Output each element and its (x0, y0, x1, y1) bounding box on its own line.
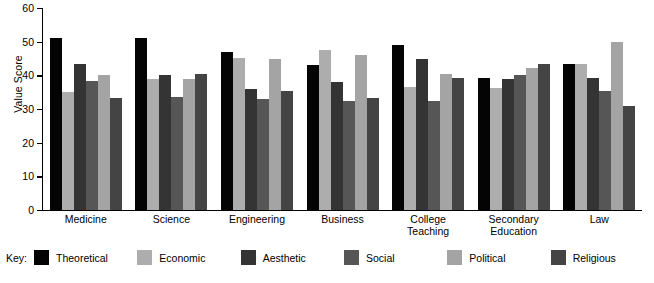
bar (514, 75, 526, 210)
y-tick-label: 40 (22, 70, 34, 81)
category-label: Engineering (214, 214, 300, 237)
legend-item-economic[interactable]: Economic (137, 250, 240, 265)
category-label: CollegeTeaching (385, 214, 471, 237)
y-tick-label: 60 (22, 3, 34, 14)
bar (233, 58, 245, 211)
legend-swatch-icon (551, 250, 566, 265)
bar-group (556, 8, 642, 210)
bar (269, 59, 281, 211)
legend-label: Economic (159, 252, 205, 264)
bar (98, 75, 110, 210)
legend-item-theoretical[interactable]: Theoretical (34, 250, 137, 265)
bar (416, 59, 428, 211)
bar (367, 98, 379, 210)
legend-label: Religious (573, 252, 616, 264)
bar (599, 91, 611, 210)
y-tick-mark (37, 109, 42, 110)
category-label-line: Education (471, 226, 557, 238)
bar (490, 88, 502, 210)
category-label: Law (556, 214, 642, 237)
bar (440, 74, 452, 210)
plot-area: 0102030405060 (42, 8, 642, 211)
legend-item-political[interactable]: Political (447, 250, 550, 265)
bar (245, 89, 257, 210)
bar-groups (43, 8, 642, 210)
bar (319, 50, 331, 210)
bar-group (385, 8, 471, 210)
category-label: SecondaryEducation (471, 214, 557, 237)
category-label: Business (300, 214, 386, 237)
legend-item-religious[interactable]: Religious (551, 250, 654, 265)
bar (159, 75, 171, 210)
legend-swatch-icon (137, 250, 152, 265)
bar (195, 74, 207, 210)
bar-group (214, 8, 300, 210)
category-label-line: Engineering (214, 214, 300, 226)
bar (428, 101, 440, 210)
y-tick-mark (37, 176, 42, 177)
bar (183, 79, 195, 210)
legend-swatch-icon (34, 250, 49, 265)
bar (171, 97, 183, 210)
legend-swatch-icon (344, 250, 359, 265)
legend-item-social[interactable]: Social (344, 250, 447, 265)
bar (526, 68, 538, 210)
bar (452, 78, 464, 210)
y-tick-mark (37, 42, 42, 43)
bar (257, 99, 269, 210)
bar-group (300, 8, 386, 210)
category-label-line: College (385, 214, 471, 226)
category-label: Science (129, 214, 215, 237)
bar (86, 81, 98, 210)
bar (343, 101, 355, 210)
chart-legend: Key: TheoreticalEconomicAestheticSocialP… (6, 250, 654, 265)
legend-item-aesthetic[interactable]: Aesthetic (241, 250, 344, 265)
y-tick-mark (37, 210, 42, 211)
bar-group (129, 8, 215, 210)
bar (563, 64, 575, 210)
x-axis-category-labels: MedicineScienceEngineeringBusinessColleg… (43, 214, 642, 237)
y-tick-label: 10 (22, 171, 34, 182)
bar (74, 64, 86, 210)
category-label-line: Teaching (385, 226, 471, 238)
bar (307, 65, 319, 210)
bar (478, 78, 490, 210)
legend-label: Social (366, 252, 395, 264)
y-tick-label: 0 (28, 205, 34, 216)
legend-swatch-icon (241, 250, 256, 265)
bar (392, 45, 404, 210)
legend-swatch-icon (447, 250, 462, 265)
bar-group (43, 8, 129, 210)
legend-label: Theoretical (56, 252, 108, 264)
bar-group (471, 8, 557, 210)
bar (587, 78, 599, 210)
value-score-bar-chart: Value Score 0102030405060 MedicineScienc… (0, 0, 654, 283)
y-tick-label: 50 (22, 36, 34, 47)
bar (575, 64, 587, 210)
y-tick-mark (37, 75, 42, 76)
category-label-line: Law (556, 214, 642, 226)
legend-label: Political (469, 252, 505, 264)
bar (62, 92, 74, 210)
bar (281, 91, 293, 210)
category-label-line: Secondary (471, 214, 557, 226)
bar (502, 79, 514, 210)
y-tick-mark (37, 143, 42, 144)
bar (623, 106, 635, 210)
x-axis-line (42, 210, 642, 211)
legend-label: Aesthetic (263, 252, 306, 264)
bar (50, 38, 62, 210)
legend-title: Key: (6, 252, 27, 264)
category-label-line: Science (129, 214, 215, 226)
bar (355, 55, 367, 210)
y-axis-label: Value Score (12, 34, 24, 134)
y-tick-label: 20 (22, 137, 34, 148)
bar (110, 98, 122, 210)
bar (331, 82, 343, 210)
y-tick-label: 30 (22, 104, 34, 115)
bar (221, 52, 233, 210)
bar (135, 38, 147, 210)
bar (611, 42, 623, 210)
category-label: Medicine (43, 214, 129, 237)
category-label-line: Business (300, 214, 386, 226)
